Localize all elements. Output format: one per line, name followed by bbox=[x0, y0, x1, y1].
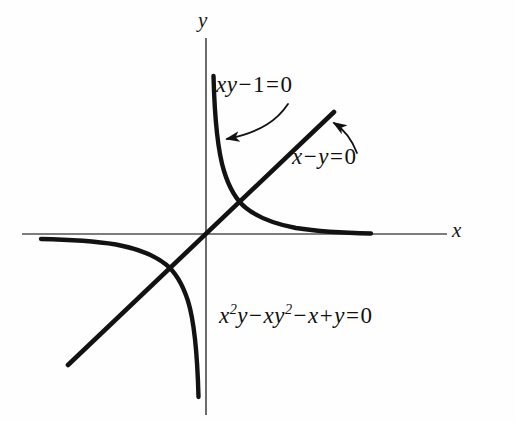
eq-term2-exponent: 2 bbox=[285, 301, 293, 317]
hyperbola-lhs: xy bbox=[216, 72, 237, 97]
line-y: y bbox=[318, 144, 329, 169]
line-zero: 0 bbox=[344, 144, 356, 169]
eq-equals: = bbox=[345, 303, 360, 328]
eq-minus-2: − bbox=[293, 303, 308, 328]
line-minus: − bbox=[303, 144, 318, 169]
hyperbola-one: 1 bbox=[253, 72, 265, 97]
hyperbola-equals: = bbox=[265, 72, 280, 97]
eq-term1-base: x bbox=[219, 303, 230, 328]
eq-term3: x bbox=[308, 303, 319, 328]
hyperbola-minus: − bbox=[237, 72, 252, 97]
line-equals: = bbox=[329, 144, 344, 169]
eq-term4: y bbox=[334, 303, 345, 328]
plot-canvas bbox=[0, 0, 515, 422]
main-equation-label: x2y−xy2−x+y=0 bbox=[219, 301, 372, 329]
line-x: x bbox=[292, 144, 303, 169]
hyperbola-zero: 0 bbox=[280, 72, 292, 97]
eq-zero: 0 bbox=[360, 303, 372, 328]
hyperbola-equation-label: xy−1=0 bbox=[216, 72, 292, 98]
eq-term1-tail: y bbox=[237, 303, 248, 328]
math-figure: y x xy−1=0 x−y=0 x2y−xy2−x+y=0 bbox=[0, 0, 515, 422]
arrow-to-hyperbola-icon bbox=[227, 104, 288, 139]
line-equation-label: x−y=0 bbox=[292, 144, 356, 170]
eq-minus-1: − bbox=[248, 303, 263, 328]
y-axis-label: y bbox=[198, 8, 207, 33]
x-axis-label: x bbox=[452, 218, 461, 243]
eq-plus: + bbox=[319, 303, 334, 328]
eq-term2-base: xy bbox=[264, 303, 285, 328]
